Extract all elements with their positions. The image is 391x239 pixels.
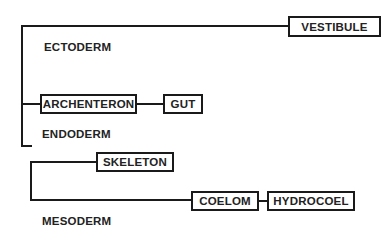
ectoderm-branch-line — [21, 25, 289, 27]
node-coelom: COELOM — [191, 191, 259, 211]
node-hydrocoel: HYDROCOEL — [267, 191, 355, 211]
node-skeleton: SKELETON — [96, 152, 174, 172]
endoderm-branch-line — [21, 103, 41, 105]
node-gut: GUT — [163, 94, 203, 114]
skeleton-branch-line — [30, 161, 97, 163]
group-label-mesoderm: MESODERM — [42, 215, 111, 227]
group-label-ectoderm: ECTODERM — [44, 41, 111, 53]
trunk-line — [21, 25, 23, 147]
mesoderm-vertical-line — [30, 161, 32, 201]
node-vestibule: VESTIBULE — [288, 16, 381, 37]
coelom-branch-line — [30, 199, 192, 201]
group-label-endoderm: ENDODERM — [42, 128, 111, 140]
archenteron-gut-line — [136, 103, 164, 105]
node-archenteron: ARCHENTERON — [40, 94, 137, 114]
mesoderm-connector-line — [21, 145, 32, 147]
